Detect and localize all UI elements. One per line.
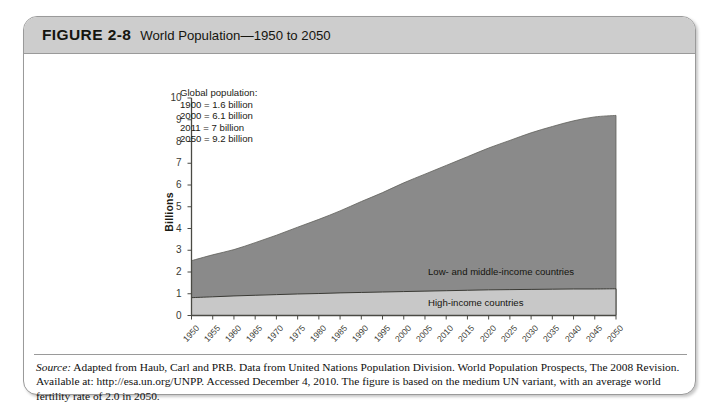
y-tick-label-3: 3 [162,244,182,255]
y-tick-label-10: 10 [162,92,182,103]
population-area-chart [24,54,697,354]
figure-box: FIGURE 2-8 World Population—1950 to 2050… [23,16,696,395]
series-label-low-middle-income: Low- and middle-income countries [428,266,574,277]
global-population-annotation: Global population: 1900 = 1.6 billion 20… [180,87,257,145]
source-divider [34,354,687,355]
annotation-line-2000: 2000 = 6.1 billion [180,110,257,122]
figure-title: World Population—1950 to 2050 [140,28,330,43]
y-tick-label-4: 4 [162,223,182,234]
source-prefix: Source: [36,361,71,373]
figure-number-label: FIGURE 2-8 [42,26,131,44]
y-tick-label-5: 5 [162,201,182,212]
y-tick-label-0: 0 [162,310,182,321]
chart-area: Billions 012345678910 195019551960196519… [24,54,695,354]
y-tick-label-8: 8 [162,136,182,147]
annotation-line-2050: 2050 = 9.2 billion [180,133,257,145]
annotation-heading: Global population: [180,87,257,99]
annotation-line-1900: 1900 = 1.6 billion [180,99,257,111]
y-tick-label-2: 2 [162,266,182,277]
source-note: Source: Adapted from Haub, Carl and PRB.… [36,360,686,403]
series-label-high-income: High-income countries [428,297,523,308]
source-text: Adapted from Haub, Carl and PRB. Data fr… [36,361,679,402]
y-tick-label-7: 7 [162,157,182,168]
y-tick-label-6: 6 [162,179,182,190]
y-tick-label-1: 1 [162,288,182,299]
x-axis-ticks [192,316,617,320]
figure-header: FIGURE 2-8 World Population—1950 to 2050 [24,17,695,54]
y-tick-label-9: 9 [162,114,182,125]
annotation-line-2011: 2011 = 7 billion [180,122,257,134]
area-low-and-middle-income [192,115,617,315]
chart-series-group [192,115,617,315]
